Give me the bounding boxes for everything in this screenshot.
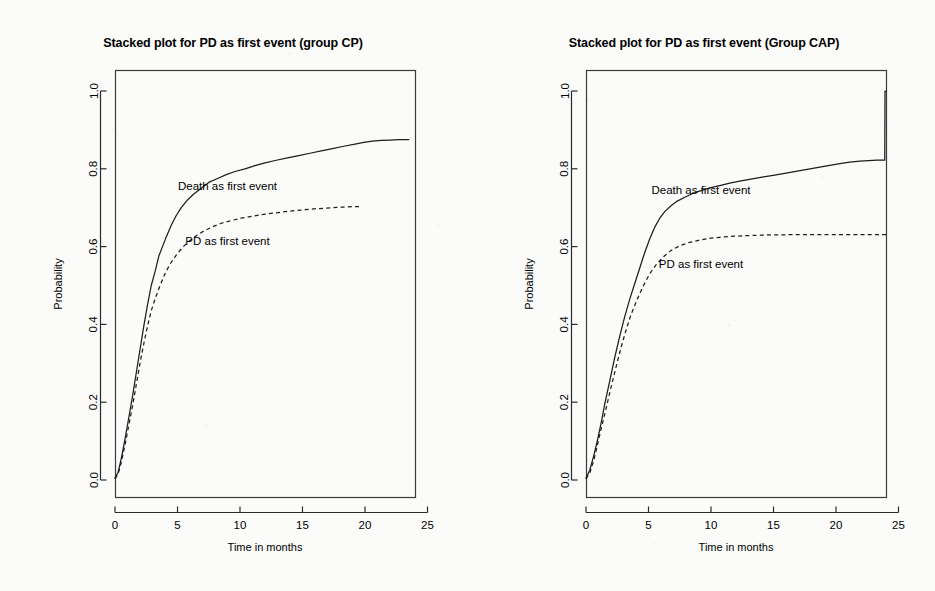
y-axis-label-left: Probability bbox=[52, 258, 64, 310]
y-tick-label: 0.6 bbox=[558, 239, 570, 255]
chart-svg-right: Stacked plot for PD as first event (Grou… bbox=[468, 0, 935, 591]
annotation-death-as-first-event: Death as first event bbox=[651, 184, 751, 196]
x-tick-label: 5 bbox=[174, 519, 180, 531]
x-axis-left: 0510152025 bbox=[112, 507, 434, 531]
y-tick-label: 0.2 bbox=[88, 394, 100, 410]
x-tick-label: 20 bbox=[359, 519, 372, 531]
y-tick-label: 0.0 bbox=[88, 472, 100, 488]
y-axis-left: 0.00.20.40.60.81.0 bbox=[88, 83, 107, 488]
y-axis-right: 0.00.20.40.60.81.0 bbox=[558, 83, 577, 488]
series-group-right bbox=[586, 91, 886, 479]
plot-frame-left bbox=[116, 71, 416, 498]
x-axis-right: 0510152025 bbox=[582, 507, 904, 531]
x-tick-label: 5 bbox=[645, 519, 651, 531]
x-tick-label: 0 bbox=[582, 519, 588, 531]
figure-panels: Stacked plot for PD as first event (grou… bbox=[0, 0, 935, 591]
annotation-pd-as-first-event: PD as first event bbox=[185, 235, 270, 247]
y-tick-label: 0.0 bbox=[558, 472, 570, 488]
x-tick-label: 10 bbox=[704, 519, 717, 531]
plot-frame-right bbox=[586, 71, 886, 498]
x-tick-label: 0 bbox=[112, 519, 118, 531]
chart-panel-left: Stacked plot for PD as first event (grou… bbox=[0, 0, 468, 591]
x-tick-label: 15 bbox=[767, 519, 780, 531]
y-tick-label: 1.0 bbox=[88, 83, 100, 99]
chart-svg-left: Stacked plot for PD as first event (grou… bbox=[0, 0, 467, 591]
x-axis-label-left: Time in months bbox=[228, 541, 303, 553]
chart-panel-right: Stacked plot for PD as first event (Grou… bbox=[468, 0, 935, 591]
x-tick-label: 20 bbox=[829, 519, 842, 531]
annotations-right: Death as first eventPD as first event bbox=[651, 184, 751, 270]
x-tick-label: 10 bbox=[234, 519, 247, 531]
y-tick-label: 0.8 bbox=[558, 161, 570, 177]
curve-pd-first-event bbox=[115, 207, 360, 479]
curve-pd-first-event bbox=[586, 235, 886, 479]
chart-title-left: Stacked plot for PD as first event (grou… bbox=[103, 36, 362, 50]
annotation-death-as-first-event: Death as first event bbox=[178, 180, 278, 192]
y-axis-label-right: Probability bbox=[523, 258, 535, 310]
y-tick-label: 0.4 bbox=[88, 316, 100, 333]
curve-death-first-event bbox=[586, 91, 886, 478]
y-tick-label: 0.4 bbox=[558, 316, 570, 333]
x-tick-label: 25 bbox=[421, 519, 434, 531]
y-tick-label: 0.6 bbox=[88, 239, 100, 255]
chart-title-right: Stacked plot for PD as first event (Grou… bbox=[568, 36, 838, 50]
y-tick-label: 1.0 bbox=[558, 83, 570, 99]
y-tick-label: 0.8 bbox=[88, 161, 100, 177]
annotations-left: Death as first eventPD as first event bbox=[178, 180, 278, 246]
x-tick-label: 15 bbox=[296, 519, 309, 531]
y-tick-label: 0.2 bbox=[558, 394, 570, 410]
x-axis-label-right: Time in months bbox=[698, 541, 773, 553]
annotation-pd-as-first-event: PD as first event bbox=[658, 258, 743, 270]
x-tick-label: 25 bbox=[892, 519, 905, 531]
